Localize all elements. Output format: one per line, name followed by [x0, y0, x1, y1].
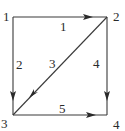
- edge-label-2: 2: [16, 57, 23, 72]
- edge-label-1: 1: [60, 19, 67, 34]
- node-label-2: 2: [113, 9, 120, 24]
- edge-label-3: 3: [49, 56, 56, 71]
- node-label-3: 3: [1, 116, 8, 131]
- node-label-1: 1: [3, 9, 10, 24]
- edge-label-5: 5: [59, 101, 66, 116]
- directed-graph: 1 2 3 4 1 2 3 4 5: [0, 0, 125, 131]
- edge-label-4: 4: [93, 56, 100, 71]
- node-label-4: 4: [113, 117, 120, 131]
